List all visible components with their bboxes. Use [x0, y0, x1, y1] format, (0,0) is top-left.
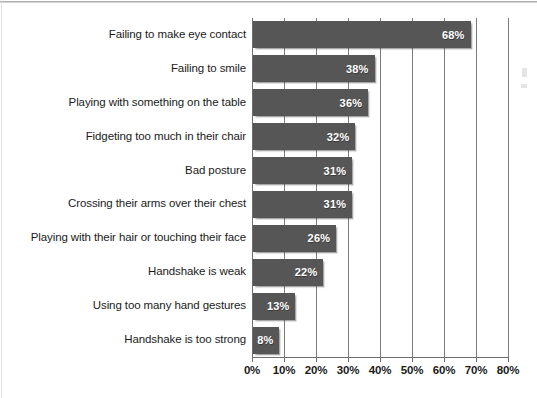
- tick-mark: [476, 357, 477, 362]
- scan-speckle: [521, 84, 527, 88]
- tick-mark: [348, 357, 349, 362]
- bar-row: 36%: [253, 89, 368, 116]
- gridline: [476, 18, 477, 357]
- bar[interactable]: 26%: [253, 225, 336, 252]
- bar-row: 31%: [253, 157, 352, 184]
- tick-mark: [508, 357, 509, 362]
- category-axis-label: Handshake is too strong: [0, 333, 246, 346]
- gridline: [412, 18, 413, 357]
- tick-mark: [252, 357, 253, 362]
- bar-value-label: 26%: [308, 232, 337, 244]
- category-axis-label: Fidgeting too much in their chair: [0, 130, 246, 143]
- bar-row: 22%: [253, 259, 323, 286]
- gridline: [380, 18, 381, 357]
- tick-mark: [444, 357, 445, 362]
- bar-chart-figure: Failing to make eye contactFailing to sm…: [0, 0, 537, 398]
- bar[interactable]: 22%: [253, 259, 323, 286]
- category-axis-label: Playing with something on the table: [0, 96, 246, 109]
- tick-mark: [412, 357, 413, 362]
- value-axis-tick-label: 80%: [488, 364, 528, 376]
- bar[interactable]: 68%: [253, 21, 471, 48]
- bar-value-label: 32%: [327, 131, 356, 143]
- bar[interactable]: 31%: [253, 191, 352, 218]
- bar[interactable]: 31%: [253, 157, 352, 184]
- bar-value-label: 68%: [442, 29, 471, 41]
- bar-row: 32%: [253, 123, 355, 150]
- bar[interactable]: 13%: [253, 293, 295, 320]
- bar-value-label: 36%: [340, 97, 369, 109]
- category-axis-label: Playing with their hair or touching thei…: [0, 231, 246, 244]
- bar-value-label: 31%: [324, 165, 353, 177]
- category-axis-label: Failing to make eye contact: [0, 28, 246, 41]
- category-axis-label: Failing to smile: [0, 62, 246, 75]
- value-axis-tick-labels: 0%10%20%30%40%50%60%70%80%: [0, 364, 537, 382]
- scan-speckle: [522, 68, 527, 77]
- bar-value-label: 22%: [295, 266, 324, 278]
- category-axis-label: Crossing their arms over their chest: [0, 197, 246, 210]
- tick-mark: [380, 357, 381, 362]
- bar-row: 68%: [253, 21, 471, 48]
- bar[interactable]: 38%: [253, 55, 375, 82]
- bar[interactable]: 32%: [253, 123, 355, 150]
- bar-row: 31%: [253, 191, 352, 218]
- bar-row: 38%: [253, 55, 375, 82]
- bar-value-label: 38%: [346, 63, 375, 75]
- tick-mark: [316, 357, 317, 362]
- bar-row: 26%: [253, 225, 336, 252]
- plot-area: 68%38%36%32%31%31%26%22%13%8%: [252, 18, 508, 357]
- bar-value-label: 31%: [324, 198, 353, 210]
- category-axis-label: Using too many hand gestures: [0, 299, 246, 312]
- category-axis-labels: Failing to make eye contactFailing to sm…: [0, 18, 246, 357]
- bar[interactable]: 36%: [253, 89, 368, 116]
- gridline: [508, 18, 509, 357]
- bar-row: 8%: [253, 327, 279, 354]
- bar-value-label: 8%: [257, 334, 278, 346]
- category-axis-label: Bad posture: [0, 164, 246, 177]
- bar[interactable]: 8%: [253, 327, 279, 354]
- gridline: [444, 18, 445, 357]
- bar-row: 13%: [253, 293, 295, 320]
- page-edge-decoration-top: [0, 1, 537, 3]
- tick-mark: [284, 357, 285, 362]
- category-axis-label: Handshake is weak: [0, 265, 246, 278]
- bar-value-label: 13%: [267, 300, 295, 312]
